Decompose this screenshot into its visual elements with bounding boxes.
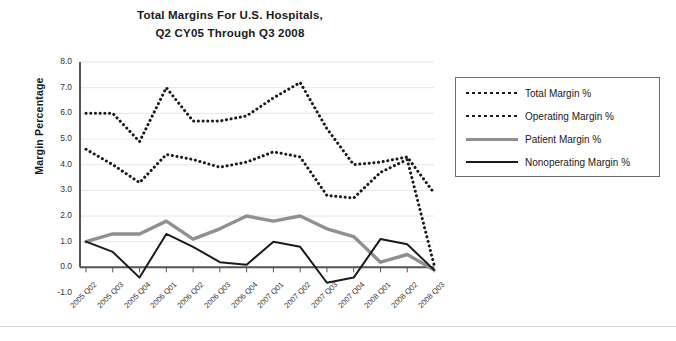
legend-item-patient-margin[interactable]: Patient Margin % [466, 130, 601, 148]
series-line [86, 216, 434, 270]
footer-divider [0, 326, 676, 327]
gridlines [80, 62, 434, 267]
dotted-line-swatch [466, 87, 518, 99]
legend-label: Patient Margin % [525, 134, 601, 145]
data-series-layer [86, 83, 434, 283]
dotted-line-swatch [466, 110, 518, 122]
gray-line-swatch [466, 133, 518, 145]
series-line [86, 83, 434, 193]
legend-label: Operating Margin % [525, 111, 614, 122]
legend-item-total-margin[interactable]: Total Margin % [466, 84, 591, 102]
legend-label: Total Margin % [525, 88, 591, 99]
series-line [86, 149, 434, 265]
chart-figure: Total Margins For U.S. Hospitals, Q2 CY0… [0, 0, 676, 341]
chart-legend: Total Margin % Operating Margin % Patien… [455, 77, 660, 177]
black-line-swatch [466, 156, 518, 168]
legend-label: Nonoperating Margin % [525, 157, 630, 168]
legend-item-operating-margin[interactable]: Operating Margin % [466, 107, 614, 125]
legend-item-nonoperating-margin[interactable]: Nonoperating Margin % [466, 153, 630, 171]
